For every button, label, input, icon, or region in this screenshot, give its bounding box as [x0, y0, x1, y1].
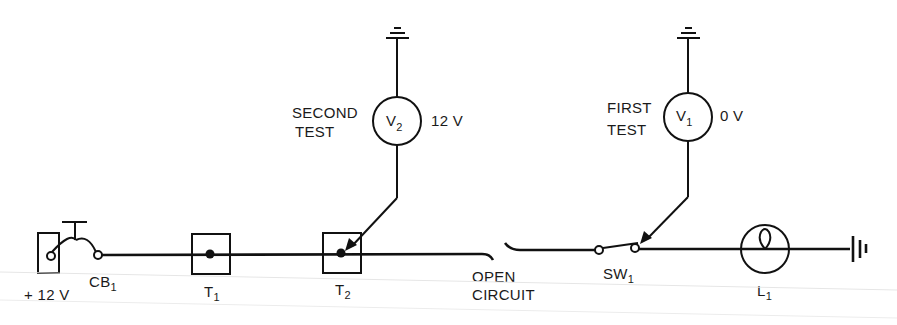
- circuit-label: CIRCUIT: [472, 286, 535, 303]
- v1-test-line2: TEST: [607, 121, 647, 138]
- v2-test-line1: SECOND: [292, 104, 358, 121]
- l1-label: L1: [757, 282, 772, 302]
- t1-label: T1: [204, 283, 220, 303]
- v1-test-line1: FIRST: [607, 99, 652, 116]
- lamp-l1: [741, 225, 789, 273]
- chassis-ground-icon: [853, 236, 866, 262]
- scan-artifact: [0, 272, 897, 290]
- switch-sw1: [595, 243, 639, 254]
- v2-reading: 12 V: [431, 112, 463, 129]
- cb1-label: CB1: [89, 273, 117, 293]
- sw1-label: SW1: [603, 265, 634, 285]
- v1-reading: 0 V: [720, 107, 743, 124]
- voltmeter-v2: [345, 28, 421, 251]
- wire-right: [505, 243, 595, 250]
- circuit-diagram: + 12 V CB1 T1 T2 OPEN CIRCUIT SW1 L1: [0, 0, 897, 325]
- t2-label: T2: [335, 281, 351, 301]
- battery-source: [38, 233, 59, 273]
- v2-test-line2: TEST: [295, 123, 335, 140]
- voltmeter-v1: [640, 28, 712, 244]
- terminal-t2: [323, 233, 361, 273]
- wire-left: [102, 254, 493, 260]
- scan-artifact: [0, 300, 897, 318]
